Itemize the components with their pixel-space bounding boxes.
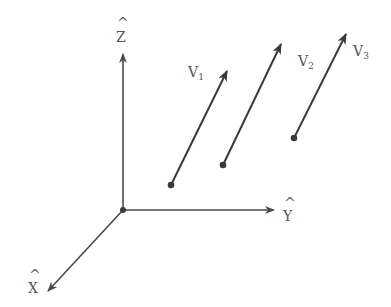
x-axis-label: X [28, 280, 38, 296]
vectors: V1 V2 V3 [168, 34, 369, 188]
x-axis [48, 210, 123, 291]
vector-v2: V2 [220, 44, 314, 168]
vector-v2-arrow [223, 44, 281, 165]
vector-v1-arrow [171, 71, 227, 185]
vector-v3-arrow [294, 34, 346, 138]
axis-labels: ^ Z ^ Y ^ X [28, 15, 296, 296]
vector-v3: V3 [291, 34, 369, 141]
vector-v1-start-point [168, 182, 175, 189]
vector-v2-label: V2 [297, 53, 314, 71]
vector-v3-label: V3 [352, 43, 369, 61]
vector-v1-label: V1 [187, 64, 204, 82]
vector-v2-start-point [220, 162, 227, 169]
diagram-canvas: ^ Z ^ Y ^ X V1 V2 V3 [0, 0, 391, 307]
axes [48, 54, 274, 291]
vector-v1: V1 [168, 64, 227, 188]
coordinate-diagram: ^ Z ^ Y ^ X V1 V2 V3 [0, 0, 391, 307]
z-axis-label: Z [116, 29, 126, 45]
y-axis-label: Y [282, 208, 293, 224]
vector-v3-start-point [291, 135, 298, 142]
origin-point [120, 207, 126, 213]
